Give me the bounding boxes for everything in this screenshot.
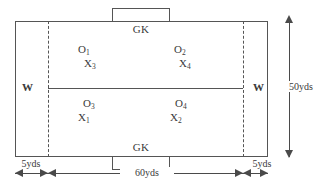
player-marker-o3: O3 <box>83 98 95 110</box>
arrow-down-icon <box>285 150 293 158</box>
arrow-right-icon-left-channel <box>40 169 48 177</box>
goalkeeper-label-bottom: GK <box>112 141 170 153</box>
arrow-left-icon-left-channel <box>15 169 23 177</box>
goal-box-top <box>112 8 170 21</box>
player-sub-x1: 1 <box>86 116 90 125</box>
player-sub-o3: 3 <box>91 102 95 111</box>
player-marker-x4: X4 <box>179 58 191 70</box>
arrow-left-icon-middle <box>48 169 56 177</box>
player-base-o4: O <box>175 97 183 109</box>
player-base-x4: X <box>179 57 187 69</box>
player-base-o2: O <box>174 43 182 55</box>
player-base-x1: X <box>78 111 86 123</box>
player-marker-o1: O1 <box>78 44 90 56</box>
player-base-x2: X <box>170 111 178 123</box>
arrow-right-icon-middle <box>235 169 243 177</box>
right-channel-dimension-label: 5yds <box>238 158 286 169</box>
player-sub-x3: 3 <box>92 62 96 71</box>
winger-label-left: W <box>22 81 33 93</box>
goalkeeper-label-top: GK <box>112 23 170 35</box>
player-sub-x4: 4 <box>187 62 191 71</box>
height-dimension-label: 50yds <box>288 81 314 92</box>
player-marker-x2: X2 <box>170 112 182 124</box>
middle-dimension-label: 60yds <box>120 167 174 178</box>
field-boundary <box>15 21 268 157</box>
arrow-right-icon-right-channel <box>260 169 268 177</box>
left-channel-dimension-label: 5yds <box>7 158 55 169</box>
player-marker-o2: O2 <box>174 44 186 56</box>
player-base-o3: O <box>83 97 91 109</box>
player-base-x3: X <box>84 57 92 69</box>
player-sub-x2: 2 <box>178 116 182 125</box>
player-marker-x1: X1 <box>78 112 90 124</box>
arrow-left-icon-right-channel <box>243 169 251 177</box>
player-marker-x3: X3 <box>84 58 96 70</box>
dashed-channel-line-right <box>243 21 244 157</box>
halfway-line <box>48 88 243 89</box>
winger-label-right: W <box>253 81 264 93</box>
player-sub-o2: 2 <box>182 48 186 57</box>
player-marker-o4: O4 <box>175 98 187 110</box>
player-base-o1: O <box>78 43 86 55</box>
player-sub-o4: 4 <box>183 102 187 111</box>
field-diagram: GK GK W W O1 X3 O2 X4 O3 X1 O4 X2 50yds … <box>0 0 320 184</box>
dashed-channel-line-left <box>48 21 49 157</box>
arrow-up-icon <box>285 15 293 23</box>
player-sub-o1: 1 <box>86 48 90 57</box>
